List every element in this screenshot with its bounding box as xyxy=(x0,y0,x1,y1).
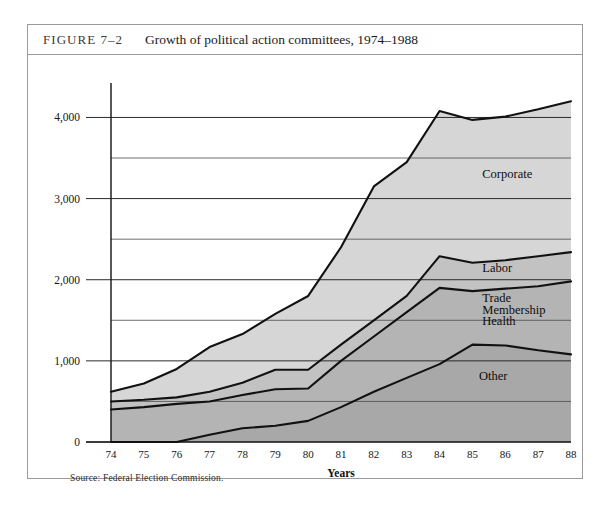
figure-container: FIGURE 7–2 Growth of political action co… xyxy=(27,24,583,479)
stacked-area-chart: 01,0002,0003,0004,0007475767778798081828… xyxy=(28,55,584,479)
y-tick-label: 3,000 xyxy=(54,193,80,206)
source-note: Source: Federal Election Commission. xyxy=(70,473,224,483)
band-label: Other xyxy=(479,369,508,383)
figure-caption: Growth of political action committees, 1… xyxy=(145,32,418,48)
x-tick-label: 80 xyxy=(303,448,315,460)
x-tick-label: 77 xyxy=(204,448,216,460)
x-tick-label: 79 xyxy=(270,448,282,460)
x-tick-label: 86 xyxy=(500,448,512,460)
band-label: Corporate xyxy=(482,167,532,181)
x-tick-label: 84 xyxy=(434,448,446,460)
figure-header: FIGURE 7–2 Growth of political action co… xyxy=(28,25,582,55)
x-tick-label: 83 xyxy=(401,448,413,460)
y-tick-label: 1,000 xyxy=(54,355,80,368)
y-tick-label: 4,000 xyxy=(54,111,80,124)
figure-number: FIGURE 7–2 xyxy=(43,32,123,48)
x-tick-label: 81 xyxy=(336,448,347,460)
x-tick-label: 87 xyxy=(533,448,545,460)
x-tick-label: 82 xyxy=(368,448,379,460)
plot-area: 01,0002,0003,0004,0007475767778798081828… xyxy=(28,55,582,478)
y-tick-label: 0 xyxy=(74,436,80,448)
x-tick-label: 74 xyxy=(106,448,118,460)
x-tick-label: 76 xyxy=(171,448,183,460)
x-tick-label: 78 xyxy=(237,448,249,460)
band-label: Labor xyxy=(482,261,513,275)
x-tick-label: 85 xyxy=(467,448,479,460)
x-axis-title: Years xyxy=(327,467,355,479)
y-tick-label: 2,000 xyxy=(54,274,80,287)
band-label: Health xyxy=(482,314,516,328)
x-tick-label: 88 xyxy=(566,448,578,460)
x-tick-label: 75 xyxy=(138,448,150,460)
